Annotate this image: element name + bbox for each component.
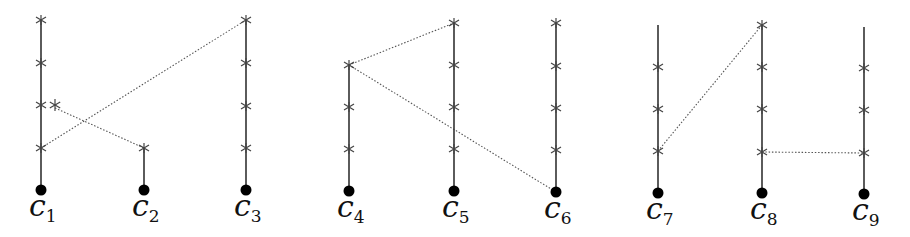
chain-label: c2 (132, 188, 160, 226)
chain-c9: c9 (852, 27, 880, 230)
cross-marker (551, 18, 561, 28)
chain-label-subscript: 8 (767, 209, 778, 229)
cross-marker (551, 145, 561, 155)
cross-marker (241, 58, 251, 68)
dotted-edge (762, 152, 864, 153)
chain-label-base: c (132, 188, 149, 223)
cross-marker (139, 143, 149, 153)
chain-label: c7 (646, 191, 674, 229)
cross-marker (344, 60, 354, 70)
chain-c6: c6 (544, 18, 572, 228)
chain-label: c4 (337, 189, 365, 227)
dotted-edge (55, 108, 144, 148)
chain-label-subscript: 6 (561, 208, 572, 228)
chain-label-subscript: 3 (251, 206, 262, 226)
chain-label-base: c (750, 191, 767, 226)
cross-marker (449, 18, 459, 28)
chain-c4: c4 (337, 60, 365, 227)
cross-marker (241, 101, 251, 111)
dotted-edge (41, 20, 246, 148)
chain-c7: c7 (646, 25, 674, 229)
dotted-edge (349, 65, 556, 192)
cross-marker (241, 15, 251, 25)
cross-marker (757, 62, 767, 72)
chain-c3: c3 (234, 15, 262, 226)
cross-marker (344, 102, 354, 112)
cross-marker (36, 143, 46, 153)
chain-label-subscript: 5 (459, 207, 470, 227)
cross-marker (551, 103, 561, 113)
chain-label-base: c (442, 189, 459, 224)
chain-label-subscript: 9 (869, 210, 880, 230)
chain-group-2: c4c5c6 (337, 18, 572, 228)
chain-label: c8 (750, 191, 778, 229)
cross-marker (36, 100, 46, 110)
chain-label: c1 (29, 188, 57, 226)
chain-label: c5 (442, 189, 470, 227)
chain-label-base: c (646, 191, 663, 226)
cross-marker (344, 144, 354, 154)
cross-marker (653, 104, 663, 114)
cross-marker (653, 62, 663, 72)
cross-marker (36, 15, 46, 25)
chain-label: c6 (544, 190, 572, 228)
chain-diagram: c1c2c3c4c5c6c7c8c9 (0, 0, 910, 237)
chain-c2: c2 (132, 143, 160, 226)
chain-group-3: c7c8c9 (646, 20, 880, 230)
cross-marker (859, 63, 869, 73)
cross-marker (859, 105, 869, 115)
chain-label: c9 (852, 192, 880, 230)
chain-label-base: c (852, 192, 869, 227)
chain-label-subscript: 7 (663, 209, 674, 229)
dotted-edge (658, 25, 762, 151)
chain-c8: c8 (750, 20, 778, 229)
cross-marker (36, 58, 46, 68)
chain-label-subscript: 1 (46, 206, 57, 226)
chain-label-base: c (29, 188, 46, 223)
cross-marker (757, 104, 767, 114)
chain-c1: c1 (29, 15, 57, 226)
chain-label-base: c (544, 190, 561, 225)
dotted-edge (349, 23, 454, 65)
chain-label-subscript: 4 (354, 207, 365, 227)
chain-label-base: c (234, 188, 251, 223)
cross-marker (449, 102, 459, 112)
cross-marker (551, 61, 561, 71)
chain-c5: c5 (442, 18, 470, 227)
chain-group-1: c1c2c3 (29, 15, 262, 226)
cross-marker (653, 146, 663, 156)
chain-label: c3 (234, 188, 262, 226)
chain-label-subscript: 2 (149, 206, 160, 226)
cross-marker (449, 60, 459, 70)
chain-label-base: c (337, 189, 354, 224)
cross-marker (859, 148, 869, 158)
cross-marker (241, 143, 251, 153)
cross-marker (449, 144, 459, 154)
